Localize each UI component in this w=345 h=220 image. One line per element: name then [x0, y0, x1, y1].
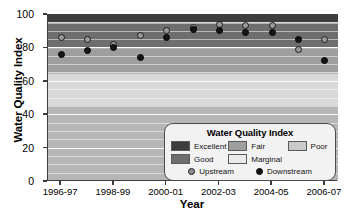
data-point-downstream — [163, 34, 170, 41]
legend-series-item-downstream: Downstream — [256, 167, 312, 176]
legend-band-item-poor: Poor — [288, 141, 331, 151]
legend-band-entries: ExcellentGoodFairMarginalPoor — [171, 141, 331, 164]
x-axis-tick-label: 1998-99 — [86, 186, 140, 197]
legend-swatch-marginal — [228, 154, 247, 164]
legend-title: Water Quality Index — [165, 127, 335, 138]
legend-band-column: FairMarginal — [228, 141, 287, 164]
y-axis-tick — [43, 80, 47, 82]
data-point-upstream — [137, 32, 144, 39]
x-axis-tick — [270, 181, 272, 185]
legend-band-item-marginal: Marginal — [228, 154, 287, 164]
legend-band-item-excellent: Excellent — [171, 141, 228, 151]
data-point-downstream — [216, 27, 223, 34]
y-axis-tick — [43, 113, 47, 115]
legend-swatch-poor — [288, 141, 307, 151]
legend-swatch-fair — [228, 141, 247, 151]
x-axis-tick — [165, 181, 167, 185]
gridline — [48, 64, 338, 65]
legend-series-label: Upstream — [199, 167, 234, 176]
legend-band-column: Poor — [288, 141, 331, 164]
y-axis-title: Water Quality Index — [12, 10, 24, 170]
legend-band-column: ExcellentGood — [171, 141, 228, 164]
data-point-downstream — [137, 54, 144, 61]
y-axis-tick — [43, 47, 47, 49]
x-axis-tick-label: 2004-05 — [244, 186, 298, 197]
x-axis-tick — [59, 181, 61, 185]
legend-band-label: Fair — [251, 142, 265, 151]
data-point-upstream — [321, 36, 328, 43]
legend-band-label: Marginal — [251, 155, 282, 164]
upstream-marker-icon — [188, 168, 195, 175]
y-axis-tick — [43, 13, 47, 15]
legend-swatch-good — [171, 154, 190, 164]
legend-swatch-excellent — [171, 141, 190, 151]
gridline — [48, 81, 338, 82]
gridline — [48, 98, 338, 99]
data-point-downstream — [269, 29, 276, 36]
downstream-marker-icon — [256, 168, 263, 175]
water-quality-index-chart: 020406080100 1996-971998-992000-012002-0… — [0, 0, 345, 220]
legend-series-item-upstream: Upstream — [188, 167, 234, 176]
data-point-upstream — [84, 36, 91, 43]
x-axis-title: Year — [47, 198, 337, 210]
legend-band-label: Excellent — [194, 142, 226, 151]
legend-band-item-fair: Fair — [228, 141, 287, 151]
gridline — [48, 56, 338, 57]
legend-series-label: Downstream — [267, 167, 312, 176]
data-point-upstream — [58, 34, 65, 41]
gridline — [48, 89, 338, 90]
data-point-downstream — [190, 26, 197, 33]
data-point-downstream — [295, 36, 302, 43]
legend-band-label: Good — [194, 155, 214, 164]
x-axis-tick — [112, 181, 114, 185]
x-axis-tick — [323, 181, 325, 185]
legend-band-item-good: Good — [171, 154, 228, 164]
legend-series-entries: UpstreamDownstream — [165, 167, 335, 176]
quality-band-fair — [48, 49, 338, 72]
legend-band-label: Poor — [311, 142, 328, 151]
x-axis-tick-label: 2002-03 — [191, 186, 245, 197]
x-axis-tick-label: 2000-01 — [139, 186, 193, 197]
data-point-upstream — [295, 46, 302, 53]
data-point-downstream — [58, 51, 65, 58]
x-axis-tick-label: 2006-07 — [297, 186, 345, 197]
y-axis-tick — [43, 147, 47, 149]
gridline — [48, 106, 338, 107]
chart-legend: Water Quality Index ExcellentGoodFairMar… — [164, 123, 336, 181]
gridline — [48, 114, 338, 115]
y-axis-tick — [43, 180, 47, 182]
x-axis-tick — [218, 181, 220, 185]
gridline — [48, 72, 338, 73]
quality-band-excellent — [48, 14, 338, 22]
x-axis-tick-label: 1996-97 — [33, 186, 87, 197]
y-axis-tick-label: 0 — [0, 175, 34, 187]
